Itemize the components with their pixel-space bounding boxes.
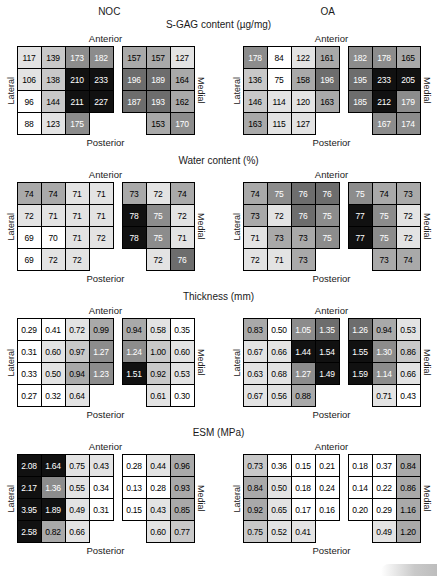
heatmap-cell: 0.20 [348,498,373,521]
heatmap-cell: 3.95 [17,498,42,521]
heatmap-cell: 0.86 [396,476,421,499]
heatmap-cell: 157 [146,46,171,69]
heatmap-cell: 1.51 [122,362,147,385]
groups-row: AnteriorLateral2.081.640.750.432.171.360… [0,440,437,559]
empty-cell [122,112,147,135]
heatmap-cell: 75 [146,226,171,249]
heatmap-cell: 69 [17,226,42,249]
heatmap-cell: 162 [170,90,195,113]
anterior-label: Anterior [1,304,210,318]
medial-label: Medial [195,349,207,376]
lateral-label: Lateral [231,485,243,513]
group-mid: Lateral2.081.640.750.432.171.360.550.343… [1,454,210,543]
heatmap-cell: 0.68 [267,362,292,385]
grid-row: 0.710.43 [348,384,421,407]
anterior-label: Anterior [227,32,436,46]
grid-row: 157157127 [122,46,195,69]
heatmap-cell: 0.55 [65,476,90,499]
heatmap-cell: 0.93 [170,476,195,499]
anterior-label: Anterior [227,168,436,182]
heatmap-cell: 0.44 [146,454,171,477]
group-mid: Lateral747471717271717169707172697272737… [1,182,210,271]
heatmap-cell: 0.50 [267,318,292,341]
grid-row: 777572 [348,204,421,227]
panel-title: ESM (MPa) [0,426,437,440]
heatmap-cell: 0.17 [291,498,316,521]
heatmap-cell: 0.72 [65,318,90,341]
panel-2: Water content (%)AnteriorLateral74747171… [0,154,437,287]
grid-row: 0.670.661.441.54 [243,340,340,363]
grid-row: 88123175 [17,112,114,135]
heatmap-cell: 1.55 [348,340,373,363]
lateral-label: Lateral [231,349,243,377]
group-label-noc: NOC [0,5,219,18]
grid-row: 0.270.320.64 [17,384,114,407]
anterior-label: Anterior [227,304,436,318]
lateral-label: Lateral [231,213,243,241]
anterior-label: Anterior [1,168,210,182]
grid-row: 697272 [17,248,114,271]
heatmap-cell: 0.50 [41,362,66,385]
grid-row: 167174 [348,112,421,135]
lateral-label: Lateral [5,349,17,377]
grid-row: 187193162 [122,90,195,113]
heatmap-cell: 0.64 [65,384,90,407]
medial-grid: 0.940.580.351.241.000.601.510.920.530.61… [122,318,195,407]
heatmap-cell: 127 [291,112,316,135]
empty-cell [348,248,373,271]
lateral-grid: 1788412216113675158196146114120163163115… [243,46,340,135]
heatmap-cell: 106 [17,68,42,91]
lateral-grid: 2.081.640.750.432.171.360.550.343.951.89… [17,454,114,543]
heatmap-cell: 0.85 [170,498,195,521]
group-oa: AnteriorLateral1788412216113675158196146… [227,32,436,151]
lateral-grid: 0.830.501.051.350.670.661.441.540.630.68… [243,318,340,407]
grid-row: 153170 [122,112,195,135]
heatmap-cell: 187 [122,90,147,113]
grid-row: 96144211227 [17,90,114,113]
grid-row: 0.130.280.93 [122,476,195,499]
group-mid: Lateral178841221611367515819614611412016… [227,46,436,135]
grid-row: 17884122161 [243,46,340,69]
heatmap-cell: 182 [89,46,114,69]
grid-row: 0.310.600.971.27 [17,340,114,363]
heatmap-cell: 127 [170,46,195,69]
heatmap-cell: 1.35 [315,318,340,341]
group-oa: AnteriorLateral7475767673727675717373757… [227,168,436,287]
heatmap-cell: 0.41 [291,520,316,543]
grid-row: 1.241.000.60 [122,340,195,363]
heatmap-cell: 1.36 [41,476,66,499]
grid-row: 2.081.640.750.43 [17,454,114,477]
heatmap-cell: 233 [89,68,114,91]
heatmap-cell: 0.97 [65,340,90,363]
grid-row: 2.171.360.550.34 [17,476,114,499]
lateral-grid: 1171391731821061382102339614421122788123… [17,46,114,135]
heatmap-cell: 1.16 [396,498,421,521]
heatmap-cell: 120 [291,90,316,113]
heatmap-cell: 115 [267,112,292,135]
empty-cell [89,384,114,407]
lateral-label: Lateral [231,77,243,105]
group-mid: Lateral0.290.410.720.990.310.600.971.270… [1,318,210,407]
grid-row: 72717171 [17,204,114,227]
heatmap-cell: 205 [396,68,421,91]
heatmap-cell: 74 [396,248,421,271]
grid-row: 0.610.30 [122,384,195,407]
heatmap-cell: 164 [170,68,195,91]
grid-row: 2.580.820.66 [17,520,114,543]
heatmap-cell: 0.41 [41,318,66,341]
heatmap-cell: 1.27 [291,362,316,385]
heatmap-cell: 122 [291,46,316,69]
empty-cell [122,520,147,543]
grid-row: 69707172 [17,226,114,249]
heatmap-cell: 72 [170,204,195,227]
heatmap-cell: 0.92 [146,362,171,385]
heatmap-cell: 77 [348,226,373,249]
group-labels-row: NOCOA [0,5,437,18]
empty-cell [89,248,114,271]
grid-row: 0.630.681.271.49 [243,362,340,385]
heatmap-cell: 0.36 [267,454,292,477]
grid-row: 0.750.520.41 [243,520,340,543]
heatmap-cell: 0.52 [267,520,292,543]
empty-cell [122,248,147,271]
heatmap-cell: 146 [243,90,268,113]
